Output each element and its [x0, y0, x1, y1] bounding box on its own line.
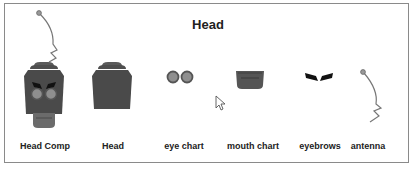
head-graphic [92, 62, 132, 109]
mouth-icon [33, 113, 55, 128]
eyebrows-graphic [305, 73, 333, 81]
label-eyebrows: eyebrows [299, 141, 341, 151]
mouth-chart-graphic [236, 71, 264, 89]
eye-right-icon [46, 89, 57, 100]
label-head: Head [102, 141, 124, 151]
antenna-icon [37, 11, 57, 62]
head-comp-graphic [24, 11, 64, 128]
label-head-comp: Head Comp [20, 141, 70, 151]
label-mouth-chart: mouth chart [227, 141, 279, 151]
head-body-shape [24, 70, 64, 114]
eye-left-icon [32, 89, 43, 100]
antenna-graphic [361, 70, 381, 122]
label-antenna: antenna [351, 141, 386, 151]
mouse-cursor-icon [216, 96, 225, 110]
eye-chart-graphic [168, 72, 193, 83]
label-eye-chart: eye chart [164, 141, 204, 151]
